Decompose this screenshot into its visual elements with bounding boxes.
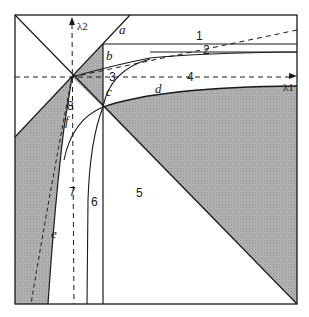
region-label-7: 7 xyxy=(69,185,76,199)
region-label-6: 6 xyxy=(91,195,98,209)
shaded-region-left xyxy=(15,77,72,304)
shaded-region-right xyxy=(103,86,297,304)
region-label-5: 5 xyxy=(136,186,143,200)
lambda1-label: λ1 xyxy=(283,81,294,93)
lambda1-arrow-icon xyxy=(289,73,297,79)
region-label-4: 4 xyxy=(187,70,194,84)
curve-label-c: c xyxy=(106,84,112,99)
curve-arc-left xyxy=(64,107,103,160)
phase-diagram: λ2 λ1 1 2 3 4 5 6 7 8 a b c d e f xyxy=(0,0,309,317)
region-label-8: 8 xyxy=(67,99,74,113)
lambda2-axis xyxy=(72,24,74,304)
curve-label-e: e xyxy=(51,226,57,241)
curve-label-d: d xyxy=(155,81,162,96)
region-label-1: 1 xyxy=(196,29,203,43)
region-label-3: 3 xyxy=(109,70,116,84)
curve-label-a: a xyxy=(119,22,126,37)
curve-label-f: f xyxy=(65,113,71,128)
lambda2-label: λ2 xyxy=(77,20,88,32)
region-label-2: 2 xyxy=(203,43,210,57)
curve-label-b: b xyxy=(106,48,113,63)
lambda2-arrow-icon xyxy=(69,17,75,25)
